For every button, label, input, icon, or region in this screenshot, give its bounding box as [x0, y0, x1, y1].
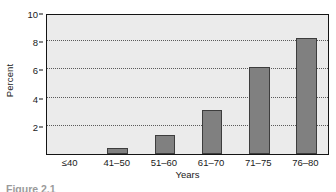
bar[interactable]	[202, 110, 223, 154]
bars-layer	[47, 15, 328, 154]
y-tick-mark	[39, 70, 43, 71]
y-tick-mark	[39, 42, 43, 43]
y-tick-label: 4	[33, 93, 38, 104]
bar[interactable]	[249, 67, 270, 154]
y-tick-mark	[39, 126, 43, 127]
x-tick-label: 76–80	[292, 157, 318, 168]
bar-chart-figure: Percent 246810 ≤4041–5051–6061–7071–7576…	[0, 0, 336, 192]
bar[interactable]	[155, 135, 176, 154]
x-tick-label: 71–75	[245, 157, 271, 168]
x-tick-label: 51–60	[151, 157, 177, 168]
y-tick-mark	[39, 98, 43, 99]
y-tick-label: 2	[33, 121, 38, 132]
x-tick-label: ≤40	[62, 157, 78, 168]
y-axis-title: Percent	[0, 0, 20, 160]
x-tick-label: 41–50	[104, 157, 130, 168]
y-axis-title-text: Percent	[5, 63, 16, 96]
y-tick-label: 8	[33, 37, 38, 48]
y-tick-label: 6	[33, 65, 38, 76]
y-tick-mark	[39, 14, 43, 15]
x-axis-title: Years	[46, 169, 329, 180]
plot-area	[46, 14, 329, 155]
figure-caption: Figure 2.1	[6, 184, 330, 192]
bar[interactable]	[107, 148, 128, 154]
y-tick-label: 10	[27, 9, 38, 20]
y-axis-tick-labels: 246810	[20, 0, 42, 160]
bar[interactable]	[296, 38, 317, 154]
x-tick-label: 61–70	[198, 157, 224, 168]
